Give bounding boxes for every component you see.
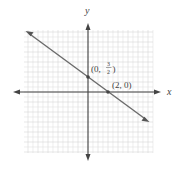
svg-text:(0,: (0, [91,64,101,74]
x-axis-right-arrow-icon [154,90,161,95]
x-axis-left-arrow-icon [13,90,20,95]
svg-text:): ) [113,64,116,74]
coordinate-plane: y x (0, 3 2 ) (2, 0) [0,0,179,170]
x-axis-label: x [166,86,172,97]
point-x-intercept [106,90,110,94]
y-axis-label: y [84,5,90,16]
point-y-intercept [86,75,90,79]
y-axis-up-arrow-icon [86,23,91,30]
x-axis [13,90,161,95]
y-axis-down-arrow-icon [86,154,91,161]
svg-text:2: 2 [107,69,110,75]
point-label-x-intercept: (2, 0) [112,80,132,90]
svg-text:3: 3 [107,61,110,67]
